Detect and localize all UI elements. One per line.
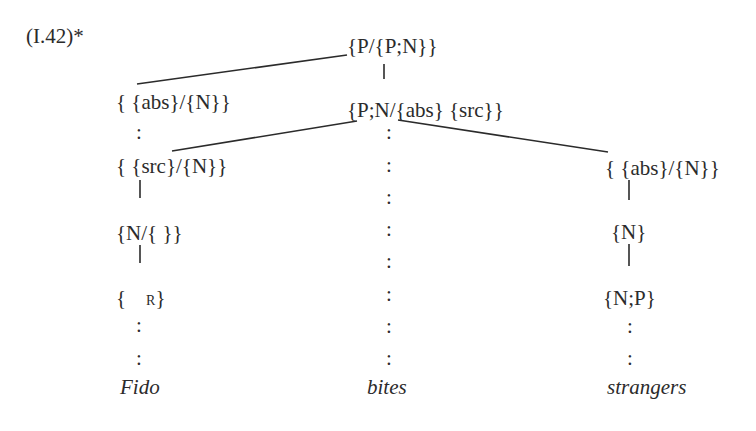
dots-mid-4: : [386,219,392,240]
dots-left-2: : [136,315,142,336]
word-strangers: strangers [607,377,686,398]
node-left-r: {R} [116,288,166,309]
dots-right-2: : [627,348,633,369]
dots-right-1: : [627,316,633,337]
brace-open: { [116,286,126,310]
tree-edges [0,0,756,431]
dots-mid-5: : [386,251,392,272]
dots-mid-7: : [386,316,392,337]
node-left-n: {N/{ }} [116,223,183,244]
node-root: {P/{P;N}} [347,36,438,57]
word-bites: bites [367,377,407,398]
node-left-src: { {src}/{N}} [116,156,227,177]
dots-mid-3: : [386,187,392,208]
dots-left-3: : [136,348,142,369]
dots-mid-1: : [386,122,392,143]
node-verb: {P;N/{abs} {src}} [347,100,504,121]
dots-mid-6: : [386,284,392,305]
edge-verb-right1 [398,120,608,152]
node-right-np: {N;P} [603,288,656,309]
dots-mid-8: : [386,348,392,369]
edge-root-left1 [137,55,347,84]
node-left-abs: { {abs}/{N}} [116,92,231,113]
dots-mid-2: : [386,155,392,176]
node-right-n: {N} [611,222,646,243]
node-right-abs: { {abs}/{N}} [605,158,720,179]
example-label: (I.42)* [26,26,84,47]
dots-left-1: : [136,122,142,143]
edge-verb-left2 [172,121,357,151]
word-fido: Fido [120,377,160,398]
brace-close: } [155,286,165,310]
